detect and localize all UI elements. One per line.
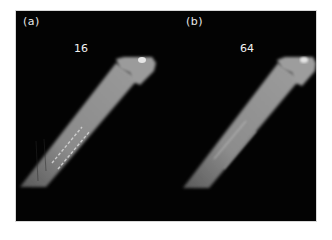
rod-image-b: [166, 11, 316, 221]
rod-image-a: [16, 11, 166, 221]
panel-b: (b) 64: [166, 11, 316, 221]
panel-a: (a) 16: [16, 11, 166, 221]
figure: (a) 16: [16, 11, 316, 221]
